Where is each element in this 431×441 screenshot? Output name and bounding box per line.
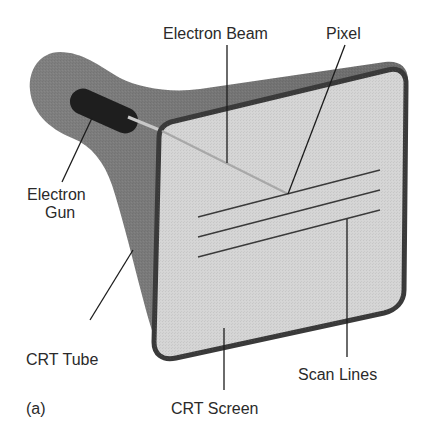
label-scan-lines: Scan Lines — [298, 366, 377, 383]
crt-tube-leader — [90, 250, 133, 320]
label-electron-beam: Electron Beam — [163, 25, 268, 42]
label-electron-gun-line2: Gun — [45, 204, 75, 221]
label-crt-tube: CRT Tube — [26, 351, 98, 368]
crt-diagram: Electron Beam Pixel Electron Gun CRT Tub… — [0, 0, 431, 441]
label-electron-gun-line1: Electron — [27, 186, 86, 203]
label-pixel: Pixel — [326, 25, 361, 42]
panel-label: (a) — [26, 400, 46, 417]
label-crt-screen: CRT Screen — [171, 400, 258, 417]
